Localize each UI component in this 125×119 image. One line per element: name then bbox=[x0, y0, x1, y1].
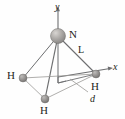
base-edge-left-right bbox=[23, 74, 96, 78]
figure-vector-layer bbox=[0, 0, 125, 119]
distance-d-label: d bbox=[90, 94, 95, 104]
nitrogen-label: N bbox=[69, 29, 77, 40]
y-axis-label: y bbox=[55, 2, 59, 12]
hydrogen-left-label: H bbox=[7, 70, 15, 81]
nh3-geometry-figure: y x N H H H L d bbox=[0, 0, 125, 119]
x-axis-label: x bbox=[113, 62, 117, 72]
nitrogen-sphere bbox=[51, 29, 66, 44]
base-edge-left-front bbox=[23, 78, 45, 99]
hydrogen-front-sphere bbox=[41, 95, 49, 103]
hydrogen-left-sphere bbox=[19, 74, 27, 82]
bond-n-h-front bbox=[45, 36, 58, 99]
hydrogen-right-sphere bbox=[92, 70, 100, 78]
bond-n-h-left bbox=[23, 36, 58, 78]
bond-length-label: L bbox=[78, 45, 84, 55]
bond-n-h-right bbox=[58, 36, 96, 74]
hydrogen-front-label: H bbox=[40, 105, 48, 116]
base-edge-front-right bbox=[45, 74, 96, 99]
hydrogen-right-label: H bbox=[91, 81, 99, 92]
